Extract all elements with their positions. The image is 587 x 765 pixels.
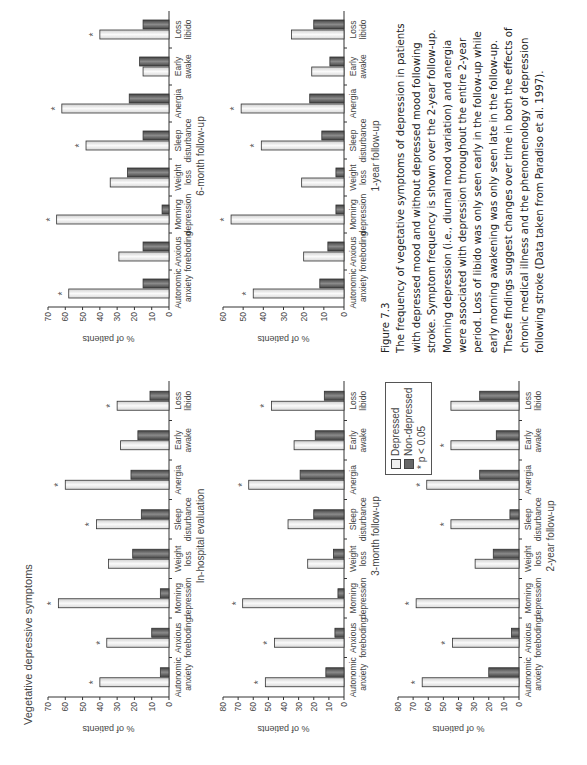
bar-nondepressed xyxy=(510,510,519,519)
y-tick-label: 40 xyxy=(258,312,268,322)
y-tick-label: 70 xyxy=(233,702,243,712)
y-axis-label: % of patients xyxy=(257,724,310,734)
bar-depressed xyxy=(288,520,344,529)
significance-marker: * xyxy=(50,106,61,110)
x-tick-label: Morning xyxy=(348,583,358,614)
significance-marker: * xyxy=(57,291,68,295)
x-tick-label: loss xyxy=(358,170,368,185)
y-axis-label: % of patients xyxy=(82,724,135,734)
chart-svg: % of patients0102030405060*Autonomicanxi… xyxy=(215,5,380,345)
significance-marker: * xyxy=(410,680,421,684)
nondepressed-swatch-icon xyxy=(404,459,414,469)
x-tick-label: Weight xyxy=(523,545,533,572)
bar-depressed xyxy=(107,638,169,647)
significance-marker: * xyxy=(439,522,450,526)
bar-depressed xyxy=(249,480,344,489)
x-tick-label: Anxious xyxy=(348,623,358,653)
legend-item-depressed: Depressed xyxy=(389,388,402,469)
x-tick-label: anxiety xyxy=(183,663,193,691)
legend: Depressed Non-depressed * p < 0.05 xyxy=(385,382,432,475)
x-tick-label: Morning xyxy=(173,583,183,614)
y-tick-label: 30 xyxy=(294,702,304,712)
x-tick-label: Early xyxy=(523,430,533,450)
x-tick-label: libido xyxy=(358,391,368,411)
significance-marker: * xyxy=(259,404,270,408)
bar-nondepressed xyxy=(300,470,344,479)
bar-nondepressed xyxy=(330,57,344,66)
y-tick-label: 70 xyxy=(43,312,53,322)
y-tick-label: 0 xyxy=(339,312,349,317)
x-tick-label: Morning xyxy=(523,583,533,614)
bar-nondepressed xyxy=(511,628,519,637)
bar-depressed xyxy=(121,441,169,450)
significance-marker: * xyxy=(45,217,56,221)
x-tick-label: foreboding xyxy=(183,617,193,657)
y-tick-label: 60 xyxy=(60,312,70,322)
bar-nondepressed xyxy=(143,242,169,251)
x-tick-label: Sleep xyxy=(523,508,533,530)
y-tick-label: 40 xyxy=(95,702,105,712)
significance-marker: * xyxy=(74,143,85,147)
y-tick-label: 10 xyxy=(319,312,329,322)
x-tick-label: Sleep xyxy=(173,129,183,151)
bar-nondepressed xyxy=(160,589,169,598)
bar-depressed xyxy=(231,215,344,224)
figure-label: Figure 7.3 xyxy=(378,13,393,353)
x-tick-label: Loss xyxy=(523,392,533,410)
y-tick-label: 10 xyxy=(147,702,157,712)
significance-marker: * xyxy=(229,106,240,110)
depressed-swatch-icon xyxy=(391,459,401,469)
x-tick-label: disturbance xyxy=(358,497,368,541)
bar-nondepressed xyxy=(315,431,344,440)
x-tick-label: disturbance xyxy=(183,497,193,541)
bar-nondepressed xyxy=(322,131,344,140)
bar-nondepressed xyxy=(143,131,169,140)
significance-marker: * xyxy=(415,483,426,487)
bar-depressed xyxy=(416,599,519,608)
bar-nondepressed xyxy=(324,391,344,400)
bar-depressed xyxy=(302,178,344,187)
bar-depressed xyxy=(62,104,169,113)
bar-depressed xyxy=(96,520,169,529)
bar-nondepressed xyxy=(489,668,519,677)
x-tick-label: awake xyxy=(183,428,193,453)
bar-depressed xyxy=(57,215,169,224)
y-axis-label: % of patients xyxy=(82,334,135,344)
bar-nondepressed xyxy=(129,94,169,103)
caption-text: The frequency of vegetative symptoms of … xyxy=(395,23,545,353)
y-tick-label: 50 xyxy=(238,312,248,322)
significance-marker: * xyxy=(95,641,106,645)
x-tick-label: Anergia xyxy=(348,89,358,119)
chart-title: 3-month follow-up xyxy=(370,356,381,716)
bar-depressed xyxy=(304,252,344,261)
x-tick-label: Loss xyxy=(348,21,358,39)
x-tick-label: Weight xyxy=(348,545,358,572)
y-tick-label: 80 xyxy=(218,702,228,712)
y-tick-label: 50 xyxy=(78,702,88,712)
y-tick-label: 0 xyxy=(339,702,349,707)
bar-nondepressed xyxy=(480,470,519,479)
chart-svg: % of patients01020304050607080*Autonomic… xyxy=(215,375,380,735)
x-tick-label: anxiety xyxy=(183,274,193,302)
y-tick-label: 60 xyxy=(423,702,433,712)
significance-marker: * xyxy=(53,483,64,487)
y-tick-label: 10 xyxy=(324,702,334,712)
x-tick-label: Sleep xyxy=(348,508,358,530)
x-tick-label: Loss xyxy=(173,392,183,410)
x-tick-label: foreboding xyxy=(358,231,368,271)
bar-depressed xyxy=(271,401,344,410)
y-tick-label: 70 xyxy=(43,702,53,712)
x-tick-label: loss xyxy=(533,551,543,566)
chart-3-month: % of patients01020304050607080*Autonomic… xyxy=(215,375,380,735)
x-tick-label: awake xyxy=(358,428,368,453)
bar-depressed xyxy=(241,104,344,113)
bar-nondepressed xyxy=(314,510,344,519)
y-tick-label: 30 xyxy=(469,702,479,712)
bar-depressed xyxy=(119,252,169,261)
y-axis-label: % of patients xyxy=(257,334,310,344)
y-tick-label: 40 xyxy=(95,312,105,322)
bar-nondepressed xyxy=(328,242,344,251)
y-tick-label: 80 xyxy=(393,702,403,712)
x-tick-label: Anergia xyxy=(173,465,183,495)
bar-depressed xyxy=(294,441,344,450)
